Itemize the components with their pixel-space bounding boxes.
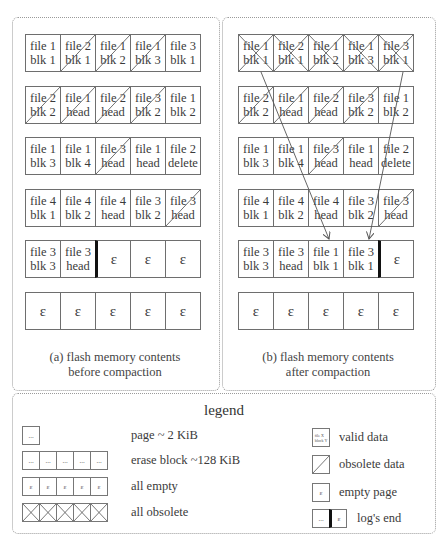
page-label: ε	[323, 304, 329, 318]
page-cell-empty: ε	[238, 292, 274, 330]
obsolete-page-symbol	[90, 503, 108, 522]
page-label: file 2 head	[313, 91, 339, 119]
legend-empty-page-label: empty page	[339, 485, 397, 500]
page-cell-valid: file 3 blk 3	[238, 240, 274, 278]
erase-block-row: file 3 blk 3file 3 headfile 1 blk 1file …	[238, 240, 414, 278]
erase-block-row: file 1 blk 3file 1 blk 4file 3 headfile …	[25, 137, 201, 175]
page-symbol: ...	[56, 451, 74, 470]
page-label: file 1 blk 4	[278, 142, 304, 170]
page-cell-erased: file 2 blk 1	[273, 34, 309, 72]
valid-data-symbol: file X block Y	[312, 428, 330, 447]
empty-page-symbol: ε	[39, 477, 57, 496]
page-cell-empty: ε	[343, 292, 379, 330]
cross-icon	[40, 504, 56, 521]
page-label: ε	[40, 304, 46, 318]
page-label: ε	[180, 252, 186, 266]
legend-obsolete-data-label: obsolete data	[339, 457, 405, 472]
caption-after: (b) flash memory contents after compacti…	[238, 350, 418, 380]
page-label: file 1 blk 2	[313, 39, 339, 67]
page-cell-valid: file 2 delete	[378, 137, 414, 175]
caption-before-line2: before compaction	[25, 365, 205, 380]
page-cell-valid: file 3 blk 2	[343, 189, 379, 227]
page-label: file 3 blk 1	[383, 39, 409, 67]
page-label: file 3 blk 2	[348, 194, 374, 222]
obsolete-page-symbol	[22, 503, 40, 522]
page-cell-valid: file 3 head	[273, 240, 309, 278]
page-label: file 1 blk 1	[243, 39, 269, 67]
page-cell-empty: ε	[378, 240, 414, 278]
page-cell-empty: ε	[95, 292, 131, 330]
epsilon-glyph: ε	[320, 489, 323, 497]
page-symbol: ...	[22, 451, 40, 470]
page-cell-valid: file 1 blk 3	[238, 137, 274, 175]
page-label: file 4 blk 2	[278, 194, 304, 222]
page-cell-valid: file 3 head	[60, 240, 96, 278]
page-cell-obsolete: file 2 blk 2	[238, 86, 274, 124]
page-cell-valid: file 1 blk 1	[25, 34, 61, 72]
page-cell-valid: file 1 blk 2	[165, 86, 201, 124]
page-cell-empty: ε	[95, 240, 131, 278]
page-label: file 4 head	[100, 194, 126, 222]
legend-title: legend	[13, 402, 435, 419]
page-cell-obsolete: file 1 blk 3	[130, 34, 166, 72]
page-cell-valid: file 4 head	[95, 189, 131, 227]
page-label: file 3 blk 1	[348, 245, 374, 273]
legend-all-empty-label: all empty	[131, 479, 178, 494]
page-cell-valid: file 1 blk 4	[60, 137, 96, 175]
page-label: file 1 head	[348, 142, 374, 170]
page-cell-obsolete: file 3 head	[378, 189, 414, 227]
page-label: file 3 blk 2	[135, 194, 161, 222]
page-cell-valid: file 3 blk 1	[165, 34, 201, 72]
page-cell-obsolete: file 3 blk 2	[130, 86, 166, 124]
obsolete-page-symbol	[73, 503, 91, 522]
page-cell-valid: file 2 delete	[165, 137, 201, 175]
page-cell-empty: ε	[165, 240, 201, 278]
page-cell-valid: file 4 blk 2	[60, 189, 96, 227]
page-cell-obsolete: file 1 blk 2	[95, 34, 131, 72]
page-cell-empty: ε	[165, 292, 201, 330]
page-cell-valid: file 4 head	[308, 189, 344, 227]
erase-block-row: file 4 blk 1file 4 blk 2file 4 headfile …	[238, 189, 414, 227]
page-cell-valid: file 3 blk 2	[130, 189, 166, 227]
page-cell-obsolete: file 2 head	[95, 86, 131, 124]
page-cell-valid: file 3 blk 3	[25, 240, 61, 278]
caption-before: (a) flash memory contents before compact…	[25, 350, 205, 380]
obsolete-data-symbol	[312, 455, 330, 474]
page-label: file 4 head	[313, 194, 339, 222]
epsilon-glyph: ε	[47, 483, 50, 491]
page-label: ε	[394, 252, 400, 266]
erase-block-row: εεεεε	[25, 292, 201, 330]
page-cell-empty: ε	[130, 240, 166, 278]
cross-icon	[23, 504, 39, 521]
page-label: file 3 blk 3	[30, 245, 56, 273]
page-label: file 3 blk 2	[348, 91, 374, 119]
page-cell-obsolete: file 2 blk 1	[60, 34, 96, 72]
page-cell-valid: file 4 blk 2	[273, 189, 309, 227]
page-cell-empty: ε	[308, 292, 344, 330]
ellipsis-glyph: ...	[28, 457, 33, 465]
slash-icon	[313, 456, 329, 473]
page-cell-erased: file 1 blk 1	[238, 34, 274, 72]
page-label: file 1 blk 2	[170, 91, 196, 119]
empty-page-symbol: ε	[90, 477, 108, 496]
page-symbol: ...	[90, 451, 108, 470]
page-label: file 1 blk 2	[100, 39, 126, 67]
page-label: file 4 blk 2	[65, 194, 91, 222]
page-label: file 3 head	[383, 194, 409, 222]
erase-block-row: file 1 blk 1file 2 blk 1file 1 blk 2file…	[25, 34, 201, 72]
page-label: file 4 blk 1	[30, 194, 56, 222]
page-label: file 1 blk 2	[383, 91, 409, 119]
caption-after-line2: after compaction	[238, 365, 418, 380]
obsolete-page-symbol	[56, 503, 74, 522]
page-cell-empty: ε	[60, 292, 96, 330]
page-label: file 1 blk 3	[243, 142, 269, 170]
empty-page-symbol: ε	[56, 477, 74, 496]
page-label: ε	[110, 304, 116, 318]
legend-all-obsolete	[22, 503, 108, 522]
legend-empty-page: ε	[312, 483, 330, 502]
page-label: ε	[145, 304, 151, 318]
page-label: file 2 blk 1	[65, 39, 91, 67]
erase-block-row: file 2 blk 2file 1 headfile 2 headfile 3…	[238, 86, 414, 124]
page-cell-obsolete: file 1 head	[60, 86, 96, 124]
page-label: file 3 head	[278, 245, 304, 273]
